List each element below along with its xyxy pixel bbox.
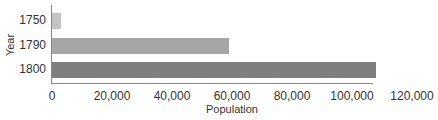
x-tick-label: 120,000	[390, 89, 433, 103]
x-tick-label: 80,000	[274, 89, 311, 103]
y-axis-title: Year	[4, 34, 16, 56]
x-tick-label: 60,000	[214, 89, 251, 103]
x-tick-label: 40,000	[154, 89, 191, 103]
x-tick-label: 0	[49, 89, 56, 103]
y-tick-label: 1790	[19, 37, 46, 53]
bar-1800	[52, 62, 376, 78]
y-axis-line	[51, 5, 52, 84]
bar-1790	[52, 38, 229, 54]
bar-1750	[52, 13, 61, 29]
population-bar-chart: Year 1750 1790 1800 0 20,000 40,000 60,0…	[0, 0, 438, 120]
y-tick-label: 1800	[19, 61, 46, 77]
x-tick-label: 100,000	[330, 89, 373, 103]
x-axis-title: Population	[206, 103, 258, 115]
y-tick-label: 1750	[19, 12, 46, 28]
x-tick-label: 20,000	[94, 89, 131, 103]
x-axis-line	[51, 83, 373, 84]
